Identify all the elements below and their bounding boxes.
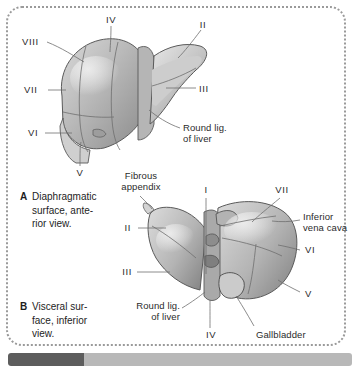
footer-bar: [8, 353, 352, 366]
label-a-segment-v: V: [72, 167, 88, 178]
caption-tag-b: B: [20, 300, 27, 314]
label-a-segment-vii: VII: [24, 84, 37, 95]
caption-panel-b: B Visceral sur- face, inferior view.: [20, 300, 128, 341]
liver-inferior-view: [143, 202, 297, 301]
label-b-segment-vii: VII: [272, 184, 292, 195]
caption-text-a: Diaphragmatic surface, ante- rior view.: [32, 190, 128, 231]
label-b-segment-iii: III: [110, 266, 132, 277]
label-b-segment-v: V: [305, 288, 312, 299]
label-b-gallbladder: Gallbladder: [256, 329, 306, 340]
label-b-segment-vi: VI: [305, 244, 315, 255]
illustration-area: VIII VII VI V IV II III Round lig. of li…: [0, 0, 360, 348]
caption-text-b: Visceral sur- face, inferior view.: [32, 300, 128, 341]
label-a-segment-vi: VI: [28, 127, 38, 138]
label-a-round-ligament: Round lig. of liver: [183, 122, 227, 144]
label-b-inferior-vena-cava: Inferior vena cava: [303, 211, 347, 233]
figure-page: VIII VII VI V IV II III Round lig. of li…: [0, 0, 360, 368]
label-a-segment-ii: II: [196, 19, 210, 30]
label-a-segment-iii: III: [199, 83, 209, 94]
label-a-segment-viii: VIII: [22, 36, 39, 47]
label-b-segment-iv: IV: [203, 329, 219, 340]
label-b-fibrous-appendix: Fibrous appendix: [113, 170, 169, 192]
label-a-segment-iv: IV: [103, 14, 119, 25]
caption-panel-a: A Diaphragmatic surface, ante- rior view…: [20, 190, 128, 231]
footer-bar-segment: [8, 353, 84, 366]
label-b-segment-i: I: [200, 184, 212, 195]
caption-tag-a: A: [20, 190, 27, 204]
liver-anterior-view: [60, 39, 207, 163]
